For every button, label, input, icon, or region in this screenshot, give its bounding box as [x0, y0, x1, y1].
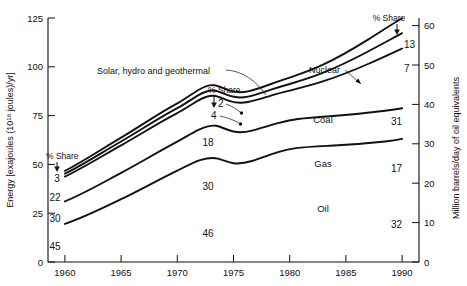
x-tick-label-1960: 1960 [54, 267, 75, 278]
share-middle-value-4: 4 [211, 110, 217, 121]
share-left-arrowhead [54, 166, 60, 172]
y-tick-label-25: 25 [32, 208, 43, 219]
series-label-gas: Gas [314, 158, 332, 169]
curve-gas [65, 108, 402, 201]
data-curves [65, 18, 402, 224]
share-middle-value-2: 2 [218, 98, 224, 109]
share-band-value-gas: 30 [202, 181, 214, 192]
share-band-value-coal: 18 [202, 137, 214, 148]
share-left-header: % Share [46, 151, 79, 161]
y-right-tick-label-40: 40 [424, 99, 435, 110]
share-middle-dot-2 [240, 111, 243, 114]
share-middle-leader-4 [220, 116, 239, 123]
annotation-nuclear: Nuclear [309, 65, 361, 84]
curve-nuclear [65, 33, 402, 174]
y-axis-right-title: Million barrels/day of oil equivalents [451, 76, 461, 219]
share-middle-leader-2 [226, 104, 240, 112]
annotation-solar: Solar, hydro and geothermal [97, 66, 266, 95]
y-tick-label-125: 125 [27, 13, 43, 24]
y-axis-right-ticks [412, 26, 419, 262]
share-left-value-gas: 22 [49, 192, 61, 203]
share-left-value-oil: 30 [49, 213, 61, 224]
y-axis-left-tick-labels: 0 25 50 75 100 125 [27, 13, 43, 268]
chart-svg: 0 25 50 75 100 125 0 10 20 30 40 50 60 1… [0, 0, 467, 286]
x-axis-tick-labels: 1960 1965 1970 1975 1980 1985 1990 [54, 267, 412, 278]
x-tick-label-1990: 1990 [392, 267, 413, 278]
share-middle-header: % Share [208, 85, 241, 95]
x-axis-ticks [65, 255, 402, 262]
y-tick-label-100: 100 [27, 61, 43, 72]
y-right-tick-label-0: 0 [424, 257, 429, 268]
share-right-value-gas: 17 [391, 163, 403, 174]
share-middle-arrowhead [211, 102, 217, 108]
share-band-value-oil: 46 [202, 228, 214, 239]
share-right-value-nuclear: 7 [404, 63, 410, 74]
share-middle-group: % Share 2 4 [208, 85, 243, 126]
series-label-oil: Oil [317, 203, 329, 214]
x-tick-label-1980: 1980 [279, 267, 300, 278]
share-middle-bands-group: 18 30 46 [202, 137, 214, 239]
y-tick-label-50: 50 [32, 159, 43, 170]
x-tick-label-1985: 1985 [335, 267, 356, 278]
series-labels: Coal Gas Oil [313, 114, 333, 214]
y-axis-left-title: Energy [exajoules (10¹⁸ joules)/yr] [5, 72, 15, 207]
y-right-tick-label-50: 50 [424, 60, 435, 71]
y-tick-label-0: 0 [38, 257, 43, 268]
y-tick-label-75: 75 [32, 110, 43, 121]
x-tick-label-1965: 1965 [111, 267, 132, 278]
solar-annotation-label: Solar, hydro and geothermal [97, 66, 210, 76]
share-right-value-oil: 32 [391, 219, 403, 230]
x-tick-label-1970: 1970 [167, 267, 188, 278]
share-left-value-other: 45 [49, 241, 61, 252]
y-right-tick-label-30: 30 [424, 138, 435, 149]
y-right-tick-label-10: 10 [424, 217, 435, 228]
curve-oil [65, 139, 402, 224]
y-axis-right-tick-labels: 0 10 20 30 40 50 60 [424, 20, 435, 267]
energy-consumption-chart: 0 25 50 75 100 125 0 10 20 30 40 50 60 1… [0, 0, 467, 286]
y-axis-left-ticks [48, 18, 55, 262]
share-right-value-coal: 31 [391, 116, 403, 127]
series-label-coal: Coal [313, 114, 333, 125]
share-right-header: % Share [373, 13, 406, 23]
share-left-value-solar: 3 [54, 173, 60, 184]
nuclear-annotation-label: Nuclear [309, 65, 340, 75]
nuclear-leader-arrowhead [355, 78, 361, 84]
share-right-value-solar: 13 [404, 39, 416, 50]
y-right-tick-label-20: 20 [424, 178, 435, 189]
share-middle-dot-4 [239, 122, 242, 125]
x-tick-label-1975: 1975 [223, 267, 244, 278]
y-right-tick-label-60: 60 [424, 20, 435, 31]
